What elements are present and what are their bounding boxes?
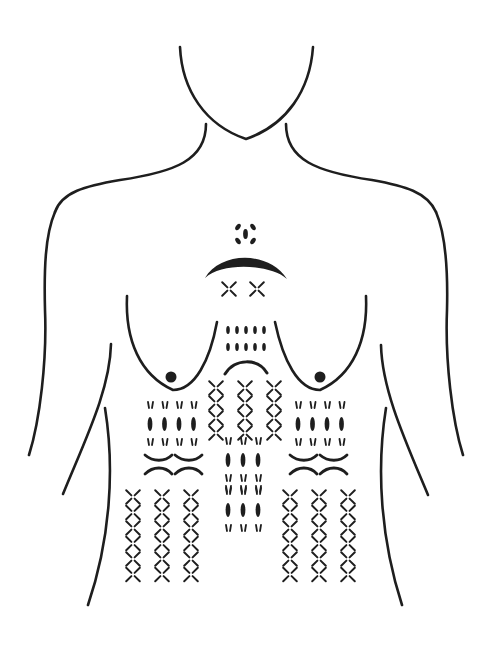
throat-mark-icon (234, 223, 257, 245)
right-torso-side (381, 408, 402, 605)
right-hypochondriac-pattern (296, 402, 345, 445)
right-inner-arm-line (381, 345, 428, 495)
right-flank-arcs-pattern (290, 455, 347, 474)
left-neck-shoulder-outline (55, 124, 206, 212)
left-flank-arcs-pattern (145, 455, 202, 474)
left-arm-outline (29, 212, 55, 455)
jaw-outline (180, 47, 313, 139)
midline-abdomen-pattern (226, 438, 261, 531)
upper-sternum-pattern (222, 282, 264, 296)
pattern-layer (126, 282, 355, 581)
clavicle-crescent-icon (205, 258, 287, 279)
torso-diagram (0, 0, 492, 646)
left-nipple-dot (166, 372, 177, 383)
left-torso-side (88, 408, 110, 605)
mid-sternum-pattern (226, 326, 266, 351)
left-inner-arm-line (63, 344, 111, 494)
right-lower-abdomen-pattern (283, 490, 355, 581)
left-lower-abdomen-pattern (126, 490, 198, 581)
epigastric-pattern (209, 381, 281, 440)
right-neck-shoulder-outline (286, 124, 436, 212)
right-nipple-dot (315, 372, 326, 383)
right-arm-outline (436, 212, 463, 455)
left-hypochondriac-pattern (148, 402, 197, 445)
xiphoid-arc-icon (225, 362, 267, 374)
